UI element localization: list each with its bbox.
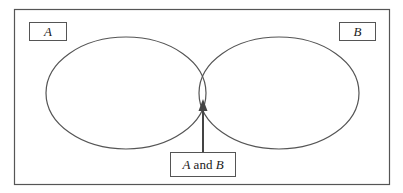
- set-a-label: A: [29, 22, 67, 41]
- set-b-ellipse: [199, 37, 359, 149]
- set-a-ellipse: [46, 37, 206, 149]
- intersection-label: A and B: [170, 152, 236, 177]
- intersection-label-b: B: [216, 157, 224, 172]
- intersection-label-connector: and: [190, 157, 215, 172]
- set-b-label: B: [339, 22, 376, 41]
